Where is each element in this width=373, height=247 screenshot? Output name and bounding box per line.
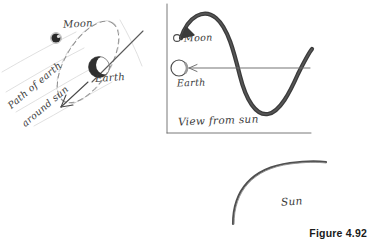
label-earth-left: Earth	[95, 72, 126, 84]
moon-body-left	[51, 33, 62, 44]
label-sun: Sun	[281, 195, 303, 207]
figure-sheet: Moon Earth Path of earth around sun Moon…	[0, 0, 373, 247]
earth-body-right	[171, 60, 187, 76]
moon-wave-path	[181, 14, 312, 114]
earth-path-line	[189, 65, 310, 72]
label-moon-right: Moon	[184, 33, 213, 43]
sun-limb-group	[233, 161, 326, 224]
figure-caption: Figure 4.92	[309, 227, 367, 239]
label-view-from-sun: View from sun	[178, 114, 259, 127]
label-earth-right: Earth	[177, 78, 206, 88]
label-moon-left: Moon	[63, 18, 93, 30]
